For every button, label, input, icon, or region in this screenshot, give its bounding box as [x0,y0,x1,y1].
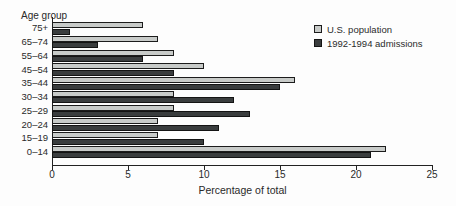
legend: U.S. population 1992-1994 admissions [314,24,423,48]
x-axis-tick-label: 25 [422,169,442,180]
bar-1992-1994-admissions [52,56,143,62]
y-axis-category-label: 45–54 [0,65,48,75]
bar-u-s-population [52,132,158,138]
bar-1992-1994-admissions [52,97,234,103]
y-axis-category-label: 30–34 [0,92,48,102]
legend-label-admissions: 1992-1994 admissions [327,38,423,49]
bar-u-s-population [52,50,174,56]
legend-swatch-admissions-icon [314,39,322,47]
bar-1992-1994-admissions [52,84,280,90]
y-axis-title: Age group [21,10,67,21]
bar-1992-1994-admissions [52,29,70,35]
bar-u-s-population [52,36,158,42]
x-axis-line [52,165,433,166]
x-axis-tick-label: 20 [346,169,366,180]
bar-u-s-population [52,118,158,124]
y-axis-category-label: 20–24 [0,120,48,130]
x-axis-tick-label: 5 [118,169,138,180]
legend-item-us-population: U.S. population [314,24,423,34]
y-axis-category-label: 65–74 [0,37,48,47]
bar-u-s-population [52,146,386,152]
bar-u-s-population [52,105,174,111]
x-axis-tick-label: 10 [194,169,214,180]
bar-u-s-population [52,22,143,28]
bar-1992-1994-admissions [52,111,250,117]
y-axis-category-label: 25–29 [0,106,48,116]
bar-1992-1994-admissions [52,125,219,131]
x-axis-tick-label: 15 [270,169,290,180]
legend-swatch-us-population-icon [314,25,322,33]
bar-1992-1994-admissions [52,152,371,158]
chart-canvas: Age group U.S. population 1992-1994 admi… [0,0,456,206]
bar-u-s-population [52,91,174,97]
bar-1992-1994-admissions [52,139,204,145]
y-axis-category-label: 35–44 [0,78,48,88]
y-axis-category-label: 15–19 [0,133,48,143]
x-axis-tick-label: 0 [42,169,62,180]
legend-label-us-population: U.S. population [327,24,392,35]
y-axis-category-label: 0–14 [0,147,48,157]
y-axis-category-label: 75+ [0,23,48,33]
bar-u-s-population [52,77,295,83]
bar-u-s-population [52,63,204,69]
bar-1992-1994-admissions [52,70,174,76]
bar-1992-1994-admissions [52,42,98,48]
legend-item-admissions: 1992-1994 admissions [314,38,423,48]
x-axis-title: Percentage of total [52,184,433,196]
y-axis-category-label: 55–64 [0,51,48,61]
